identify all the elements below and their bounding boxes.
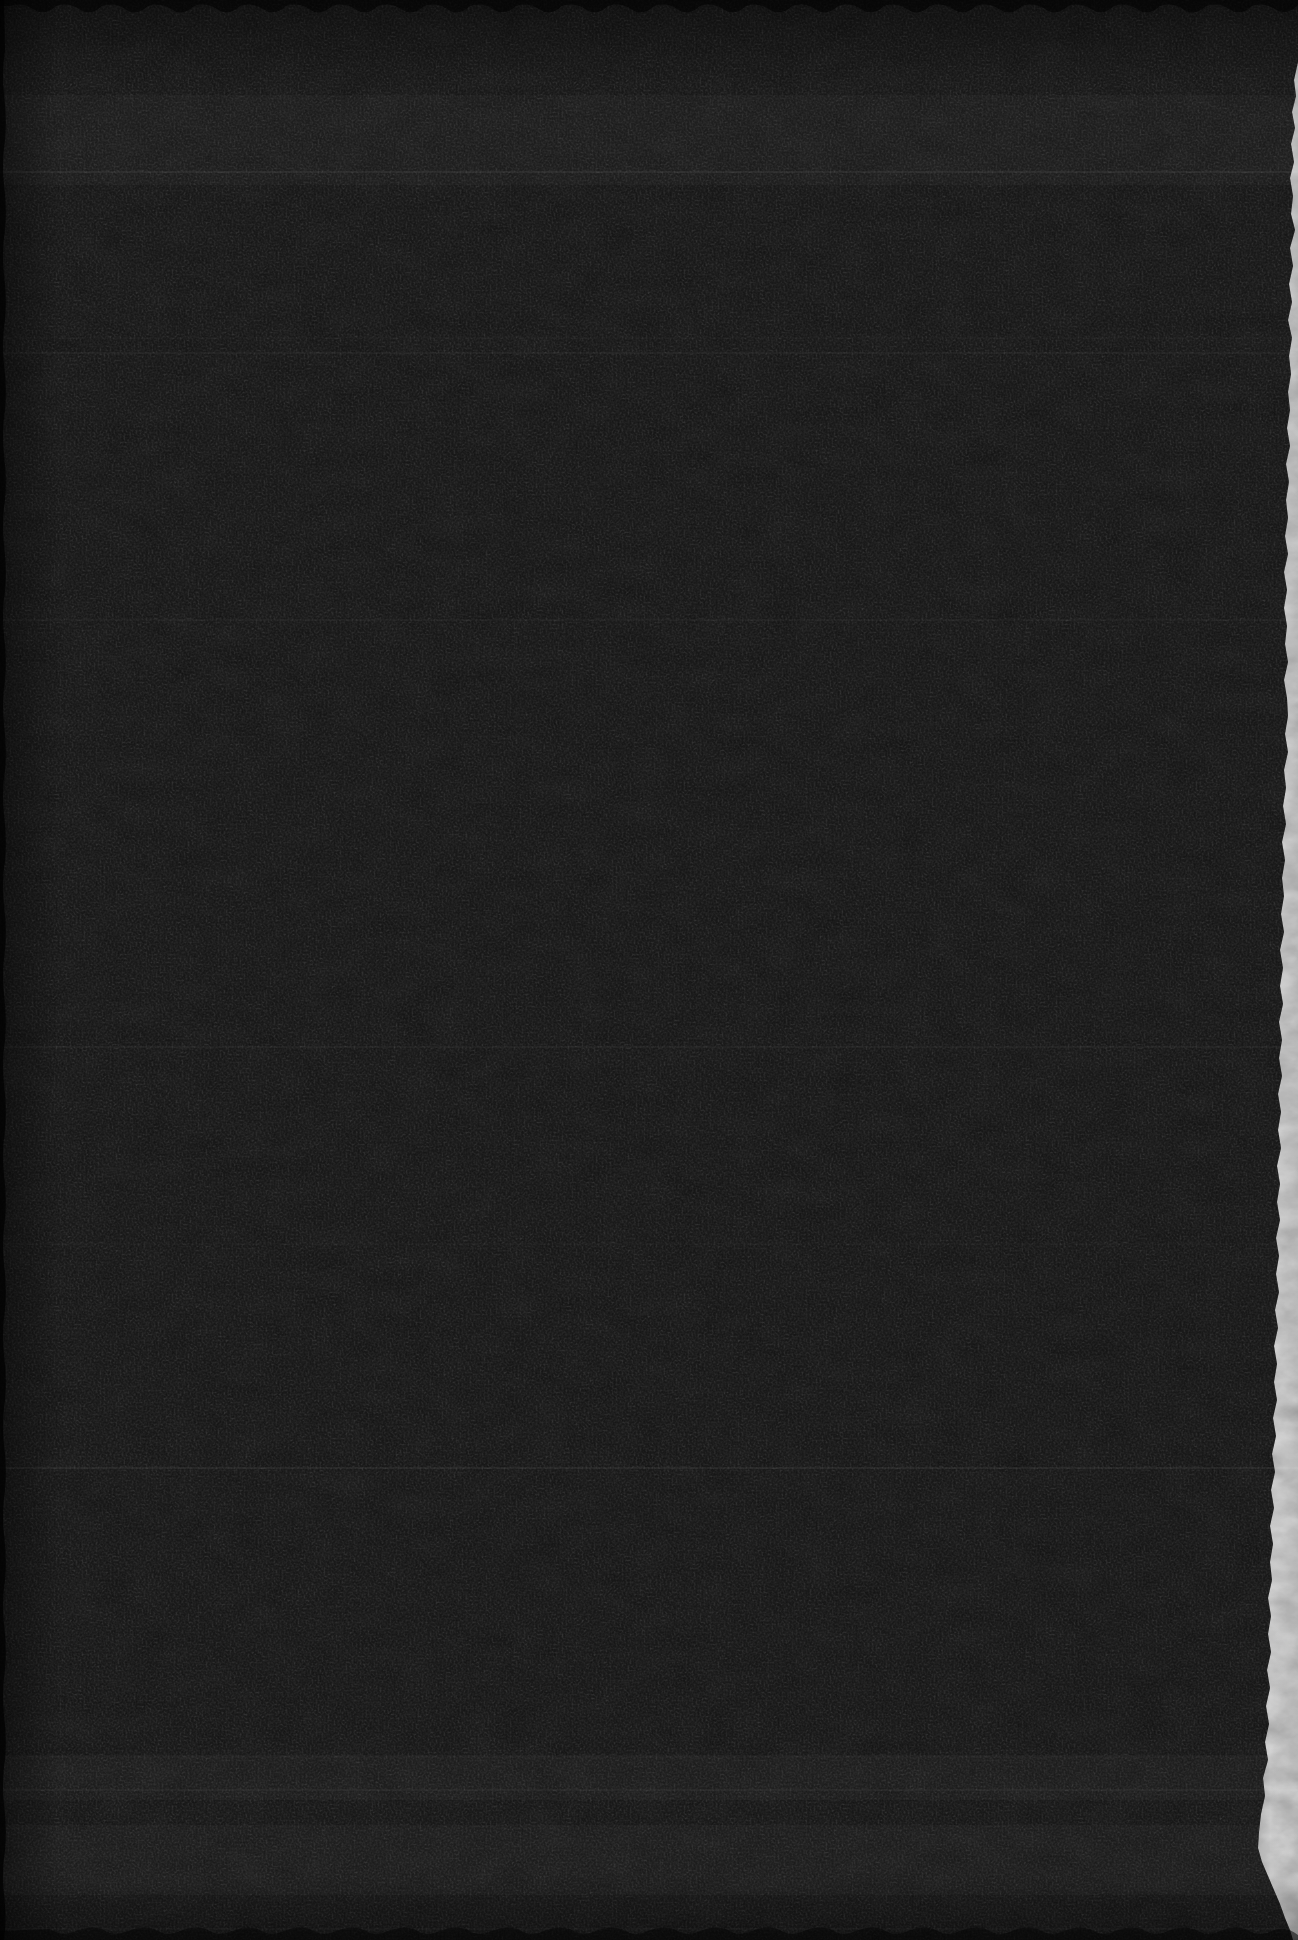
left-vignette [0, 0, 60, 1940]
scan-light-band [0, 95, 1298, 185]
paper-light-flecks [0, 0, 1298, 1940]
scan-light-band [0, 1755, 1298, 1800]
bottom-vignette [0, 1875, 1298, 1940]
top-vignette [0, 0, 1298, 85]
page-scan-canvas [0, 0, 1298, 1940]
scanned-page-stage [0, 0, 1298, 1940]
